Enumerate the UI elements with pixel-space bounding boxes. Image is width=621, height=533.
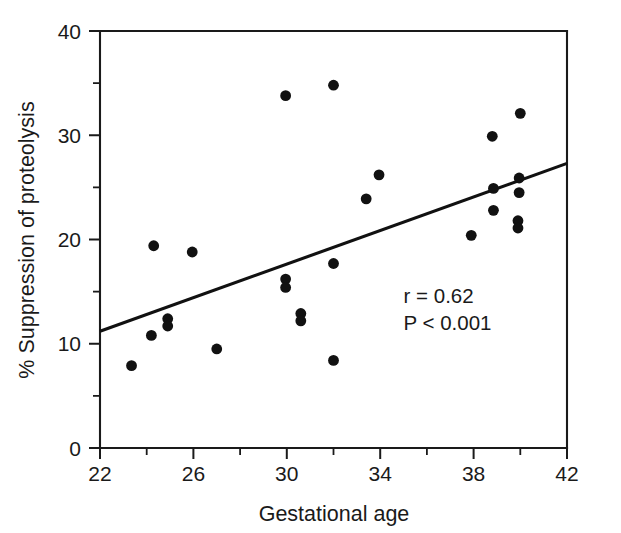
data-point [280,282,291,293]
statistics-annotations: r = 0.62P < 0.001 [404,284,492,334]
data-point [328,355,339,366]
data-point [487,131,498,142]
x-axis-title: Gestational age [259,502,410,526]
x-tick-label: 38 [462,462,485,485]
data-point [514,173,525,184]
annotation-text: P < 0.001 [404,311,492,334]
annotation-text: r = 0.62 [404,284,474,307]
y-tick-label: 20 [58,228,81,251]
data-point [374,169,385,180]
y-tick-label: 0 [69,437,81,460]
y-tick-label: 10 [58,332,81,355]
data-point [295,315,306,326]
data-point [211,344,222,355]
data-point [148,240,159,251]
y-tick-label: 40 [58,20,81,43]
data-point [488,183,499,194]
data-point [187,247,198,258]
x-tick-label: 34 [369,462,393,485]
scatter-plot-figure: 010203040 222630343842 Gestational age %… [0,0,621,533]
data-point [328,80,339,91]
data-point [515,108,526,119]
axes-group [100,31,567,448]
data-point [126,360,137,371]
data-point [146,330,157,341]
data-point [162,321,173,332]
data-point [328,258,339,269]
y-axis-major-ticks [89,31,100,448]
y-axis-title: % Suppression of proteolysis [15,101,39,378]
x-tick-label: 26 [182,462,205,485]
x-tick-label: 42 [555,462,578,485]
y-tick-label: 30 [58,124,81,147]
data-point [466,230,477,241]
data-point [488,205,499,216]
plot-canvas: 010203040 222630343842 Gestational age %… [0,0,621,533]
data-point [514,187,525,198]
data-point [361,193,372,204]
x-tick-label: 22 [88,462,111,485]
data-point [513,223,524,234]
y-axis-tick-labels: 010203040 [58,20,81,460]
data-point [280,90,291,101]
x-axis-tick-labels: 222630343842 [88,462,578,485]
x-tick-label: 30 [275,462,298,485]
